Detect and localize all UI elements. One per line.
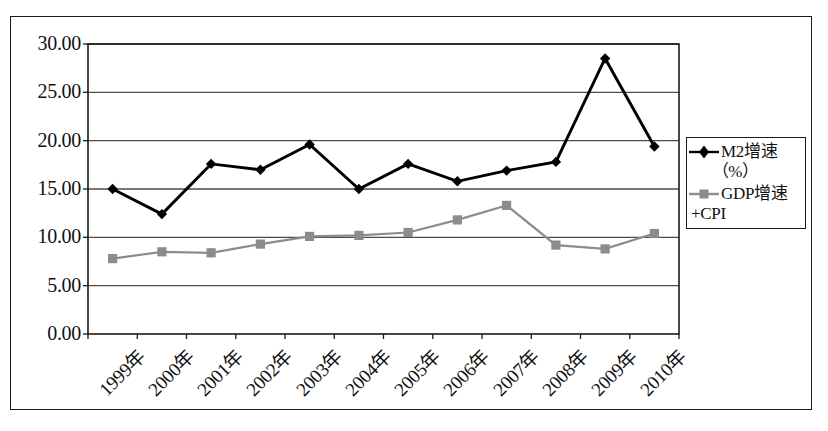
legend-item-m2: M2增速 （%） — [687, 142, 807, 182]
legend-marker-diamond-icon — [687, 142, 721, 162]
y-axis-tick-label: 10.00 — [0, 225, 81, 248]
chart-legend: M2增速 （%） GDP增速 +CPI — [686, 137, 806, 229]
legend-label-gdp-cpi-line1: GDP增速 — [721, 184, 788, 203]
legend-marker-square-icon — [687, 184, 721, 204]
y-axis-tick-label: 15.00 — [0, 177, 81, 200]
legend-label-m2-line1: M2增速 — [721, 142, 777, 161]
y-axis-tick-label: 30.00 — [0, 32, 81, 55]
y-axis-tick-label: 25.00 — [0, 80, 81, 103]
y-axis-tick-label: 20.00 — [0, 129, 81, 152]
y-axis-tick-label: 0.00 — [0, 322, 81, 345]
legend-label-gdp-cpi-line2: +CPI — [691, 204, 788, 224]
data-series — [107, 53, 659, 263]
y-axis-tick-label: 5.00 — [0, 274, 81, 297]
legend-item-gdp-cpi: GDP增速 +CPI — [687, 184, 807, 224]
legend-label-gdp-cpi: GDP增速 +CPI — [721, 184, 788, 224]
legend-label-m2: M2增速 （%） — [721, 142, 777, 182]
legend-label-m2-line2: （%） — [693, 162, 777, 182]
gridlines — [88, 44, 679, 286]
chart-figure: 30.0025.0020.0015.0010.005.000.00 1999年2… — [0, 0, 828, 431]
